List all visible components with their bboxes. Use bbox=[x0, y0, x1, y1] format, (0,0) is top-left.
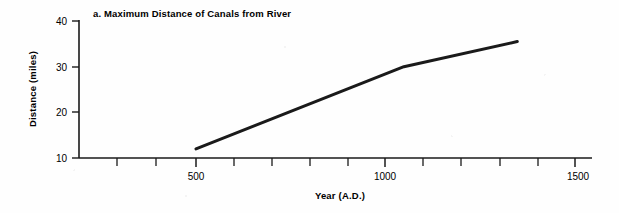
figure-panel: a. Maximum Distance of Canals from River… bbox=[0, 0, 619, 213]
x-tick-label-1000: 1000 bbox=[374, 171, 397, 182]
y-tick-label-20: 20 bbox=[56, 107, 68, 118]
x-axis-title: Year (A.D.) bbox=[315, 190, 365, 201]
line-chart: a. Maximum Distance of Canals from River… bbox=[0, 0, 619, 213]
y-axis-title: Distance (miles) bbox=[27, 51, 38, 127]
data-series-line bbox=[196, 42, 517, 149]
y-tick-label-30: 30 bbox=[56, 62, 68, 73]
y-tick-label-40: 40 bbox=[56, 16, 68, 27]
y-axis-ticks bbox=[72, 21, 79, 158]
x-axis-minor-ticks bbox=[117, 158, 538, 166]
x-axis-major-ticks bbox=[196, 158, 575, 167]
x-tick-label-500: 500 bbox=[188, 171, 205, 182]
chart-title: a. Maximum Distance of Canals from River bbox=[93, 8, 291, 19]
x-tick-label-1500: 1500 bbox=[567, 171, 590, 182]
y-tick-label-10: 10 bbox=[56, 153, 68, 164]
